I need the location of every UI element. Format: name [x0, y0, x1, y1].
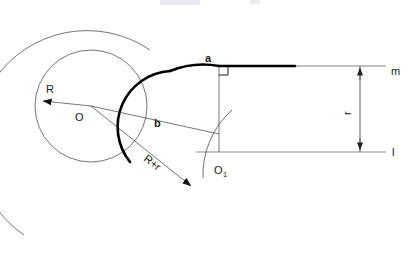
large-outer-arc — [0, 31, 150, 235]
label-radius-sum: R+r — [142, 152, 164, 173]
radius-sum-leader — [91, 106, 191, 186]
label-dimension-r: r — [341, 111, 353, 115]
thick-fillet-arc — [170, 65, 219, 71]
label-point-b: b — [154, 117, 161, 129]
radius-R-leader — [43, 101, 91, 106]
label-center-O: O — [75, 111, 84, 123]
figure-canvas: R O b a R+r O 1 m l r — [0, 0, 416, 256]
label-point-a: a — [205, 52, 212, 64]
right-angle-marker — [219, 66, 228, 75]
label-line-l: l — [392, 146, 394, 158]
clipped-header-text — [160, 0, 260, 5]
technical-diagram: R O b a R+r O 1 m l r — [0, 0, 416, 256]
label-radius-R: R — [46, 83, 54, 95]
label-line-m: m — [391, 65, 400, 77]
label-center-O1: O — [214, 164, 223, 176]
label-center-O1-subscript: 1 — [223, 170, 227, 179]
